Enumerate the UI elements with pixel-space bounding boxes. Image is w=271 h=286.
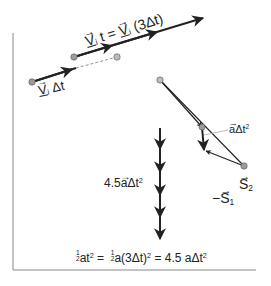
neg-s1-arrow: [206, 151, 244, 166]
subscript: 2: [248, 183, 253, 193]
vector-a: a: [229, 124, 235, 135]
vector-a: a: [121, 177, 128, 189]
vector-v: V: [117, 22, 130, 38]
subscript: 1: [230, 197, 235, 207]
dashed-connector: [76, 57, 117, 68]
label-stack: 4.5aΔt2: [104, 177, 143, 189]
exponent: 2: [90, 251, 94, 260]
label-neg-s1: −S1: [212, 191, 234, 206]
label-s2: S2: [239, 177, 253, 192]
equals: =: [97, 251, 104, 265]
a-dt2-leader: [204, 130, 228, 135]
vector-s: S: [220, 191, 229, 205]
eq-text: = 4.5: [154, 251, 181, 265]
exponent: 2: [246, 123, 250, 130]
vector-v: V: [37, 83, 48, 98]
label-bottom-equation: 12at2 = 12a(3Δt)2 = 4.5 aΔt2: [76, 250, 207, 264]
eq-text: a(3Δt): [114, 251, 147, 265]
exponent: 2: [139, 176, 143, 185]
vector-s: S: [239, 177, 248, 191]
a-dt2-arrow: [202, 127, 204, 150]
exponent: 2: [147, 251, 151, 260]
position-points: [29, 54, 247, 169]
exponent: 2: [203, 251, 207, 260]
diagram-canvas: [0, 0, 271, 286]
minus-sign: −: [212, 190, 220, 206]
label-a-dt2: aΔt2: [229, 124, 249, 135]
eq-text: aΔt: [185, 251, 203, 265]
eq-text: at: [80, 251, 90, 265]
coefficient: 4.5: [104, 176, 121, 190]
